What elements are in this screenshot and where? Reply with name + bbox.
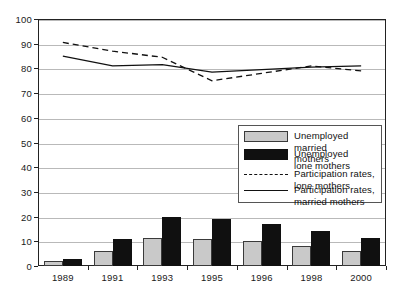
legend-swatch-married-icon [244,131,288,142]
legend-dashed-line-icon [244,169,288,180]
chart-legend: Unemployed married mothersUnemployed lon… [238,125,382,203]
line-participation-married-mothers [63,56,361,72]
legend-item: Participation rates, married mothers [244,184,375,207]
legend-item-label: Participation rates, married mothers [294,184,375,207]
legend-swatch-lone-icon [244,149,288,160]
line-participation-lone-mothers [63,42,361,80]
legend-solid-line-icon [244,185,288,196]
chart-container: 0102030405060708090100198919911993199519… [0,0,418,302]
